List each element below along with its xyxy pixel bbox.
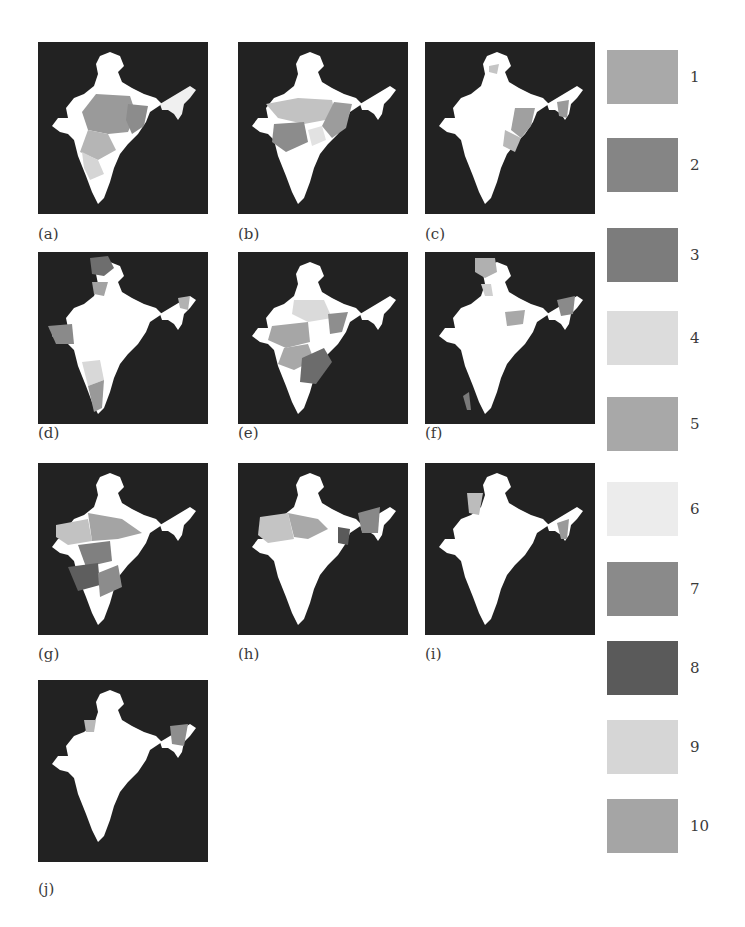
map-panel-e <box>238 252 408 424</box>
india-map <box>425 463 595 635</box>
india-map <box>238 252 408 424</box>
legend-swatch-1 <box>607 50 678 104</box>
panel-label-i: (i) <box>425 645 442 663</box>
map-panel-g <box>38 463 208 635</box>
legend-swatch-5 <box>607 397 678 451</box>
legend-swatch-6 <box>607 482 678 536</box>
india-map <box>38 463 208 635</box>
legend-swatch-7 <box>607 562 678 616</box>
panel-label-j: (j) <box>38 880 54 898</box>
legend-swatch-3 <box>607 228 678 282</box>
panel-label-f: (f) <box>425 424 442 442</box>
india-map <box>238 42 408 214</box>
map-panel-f <box>425 252 595 424</box>
legend-swatch-9 <box>607 720 678 774</box>
legend-label-3: 3 <box>690 246 700 264</box>
legend-label-7: 7 <box>690 580 700 598</box>
map-panel-j <box>38 680 208 862</box>
panel-label-a: (a) <box>38 225 59 243</box>
panel-label-c: (c) <box>425 225 445 243</box>
india-map <box>38 680 208 862</box>
panel-label-d: (d) <box>38 424 59 442</box>
map-panel-a <box>38 42 208 214</box>
legend-swatch-10 <box>607 799 678 853</box>
legend-label-1: 1 <box>690 68 700 86</box>
india-map <box>238 463 408 635</box>
map-panel-b <box>238 42 408 214</box>
legend-swatch-4 <box>607 311 678 365</box>
india-map <box>38 252 208 424</box>
legend-label-10: 10 <box>690 817 709 835</box>
panel-label-g: (g) <box>38 645 59 663</box>
legend-swatch-2 <box>607 138 678 192</box>
legend-label-6: 6 <box>690 500 700 518</box>
legend-label-5: 5 <box>690 415 700 433</box>
india-map <box>425 42 595 214</box>
map-panel-d <box>38 252 208 424</box>
legend-label-4: 4 <box>690 329 700 347</box>
map-panel-i <box>425 463 595 635</box>
panel-label-e: (e) <box>238 424 259 442</box>
legend-label-2: 2 <box>690 156 700 174</box>
legend-swatch-8 <box>607 641 678 695</box>
india-map <box>425 252 595 424</box>
map-panel-c <box>425 42 595 214</box>
panel-label-b: (b) <box>238 225 259 243</box>
panel-label-h: (h) <box>238 645 259 663</box>
legend-label-8: 8 <box>690 659 700 677</box>
map-panel-h <box>238 463 408 635</box>
legend-label-9: 9 <box>690 738 700 756</box>
india-map <box>38 42 208 214</box>
